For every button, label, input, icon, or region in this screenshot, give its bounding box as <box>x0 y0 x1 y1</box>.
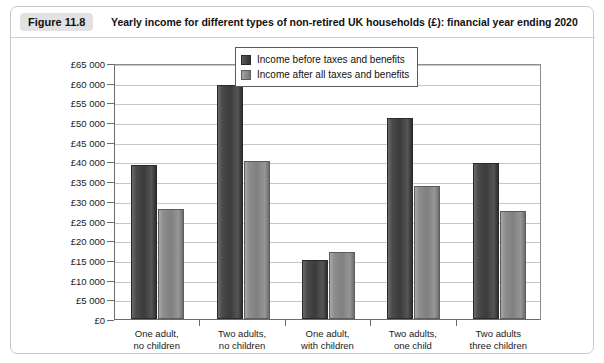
y-axis-tick-label: £20 000 <box>19 236 105 247</box>
bar-before-3 <box>387 118 413 319</box>
y-axis-tick <box>107 281 114 282</box>
x-axis-label-line: one child <box>389 340 437 352</box>
y-axis-tick-label: £10 000 <box>19 275 105 286</box>
y-axis-tick-label: £0 <box>19 315 105 326</box>
figure-header: Figure 11.8 Yearly income for different … <box>11 7 593 37</box>
y-axis-tick-label: £45 000 <box>19 137 105 148</box>
plot-area <box>114 64 541 320</box>
chart-legend: Income before taxes and benefits Income … <box>235 47 418 87</box>
x-axis-tick <box>370 320 371 326</box>
legend-swatch-icon-before <box>241 55 251 65</box>
bar-before-4 <box>473 163 499 319</box>
x-axis-category-label-1: Two adults,no children <box>218 328 266 352</box>
y-axis-tick-label: £40 000 <box>19 157 105 168</box>
gridline <box>115 104 540 105</box>
y-axis-tick-label: £60 000 <box>19 78 105 89</box>
x-axis-tick <box>199 320 200 326</box>
y-axis-tick-label: £15 000 <box>19 255 105 266</box>
y-axis-tick-label: £30 000 <box>19 196 105 207</box>
x-axis-category-label-2: One adult,with children <box>301 328 354 352</box>
y-axis-tick <box>107 320 114 321</box>
bar-after-0 <box>158 209 184 319</box>
x-axis-label-line: with children <box>301 340 354 352</box>
y-axis-tick-label: £25 000 <box>19 216 105 227</box>
y-axis-tick-label: £55 000 <box>19 98 105 109</box>
x-axis-category-label-0: One adult,no children <box>133 328 179 352</box>
x-axis-category-label-4: Two adultsthree children <box>470 328 528 352</box>
y-axis-tick <box>107 162 114 163</box>
bar-after-4 <box>500 211 526 319</box>
y-axis-tick <box>107 241 114 242</box>
gridline <box>115 124 540 125</box>
legend-item-after: Income after all taxes and benefits <box>241 67 409 82</box>
x-axis-label-line: Two adults, <box>218 328 266 340</box>
y-axis-tick <box>107 84 114 85</box>
y-axis-tick <box>107 123 114 124</box>
y-axis-tick <box>107 202 114 203</box>
x-axis-tick <box>285 320 286 326</box>
figure-title: Yearly income for different types of non… <box>111 13 578 31</box>
figure-number-badge: Figure 11.8 <box>20 13 93 31</box>
legend-label-after: Income after all taxes and benefits <box>257 69 409 80</box>
y-axis-tick-label: £65 000 <box>19 59 105 70</box>
chart-area: £0£5 000£10 000£15 000£20 000£25 000£30 … <box>11 38 595 354</box>
bar-before-2 <box>302 260 328 319</box>
x-axis-tick <box>456 320 457 326</box>
y-axis-tick-label: £5 000 <box>19 295 105 306</box>
x-axis-label-line: Two adults, <box>389 328 437 340</box>
x-axis-label-line: three children <box>470 340 528 352</box>
x-axis-label-line: no children <box>218 340 266 352</box>
legend-label-before: Income before taxes and benefits <box>257 54 405 65</box>
y-axis-tick <box>107 143 114 144</box>
y-axis-tick <box>107 261 114 262</box>
x-axis-label-line: Two adults <box>470 328 528 340</box>
bar-after-3 <box>414 186 440 319</box>
x-axis-label-line: no children <box>133 340 179 352</box>
y-axis-tick <box>107 103 114 104</box>
y-axis-tick <box>107 64 114 65</box>
y-axis-labels: £0£5 000£10 000£15 000£20 000£25 000£30 … <box>11 38 105 354</box>
bar-after-1 <box>244 161 270 319</box>
bar-before-1 <box>217 85 243 319</box>
x-axis-category-label-3: Two adults,one child <box>389 328 437 352</box>
bar-after-2 <box>329 252 355 319</box>
gridline <box>115 144 540 145</box>
bar-before-0 <box>131 165 157 319</box>
legend-item-before: Income before taxes and benefits <box>241 52 409 67</box>
y-axis-tick <box>107 300 114 301</box>
y-axis-tick <box>107 182 114 183</box>
x-axis-label-line: One adult, <box>133 328 179 340</box>
x-axis-label-line: One adult, <box>301 328 354 340</box>
y-axis-tick-label: £50 000 <box>19 118 105 129</box>
y-axis-tick-label: £35 000 <box>19 177 105 188</box>
figure-card: Figure 11.8 Yearly income for different … <box>10 6 594 354</box>
legend-swatch-icon-after <box>241 70 251 80</box>
y-axis-tick <box>107 222 114 223</box>
